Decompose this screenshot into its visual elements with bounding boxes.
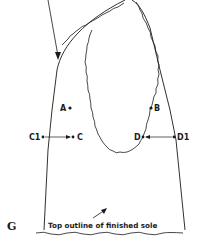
point-d1-label: D1 [177, 133, 190, 142]
point-b-label: B [154, 104, 160, 113]
figure-label: G [7, 220, 16, 233]
pointer-line-top [48, 0, 58, 56]
point-c1-label: C1 [29, 133, 41, 142]
point-c-label: C [77, 133, 83, 142]
point-c-dot [72, 136, 75, 139]
point-d-dot [142, 136, 145, 139]
point-a-label: A [60, 104, 67, 113]
point-c1-dot [42, 136, 45, 139]
finished-sole-outline [62, 2, 159, 153]
arrowhead-d [145, 135, 150, 139]
arrowhead-c [66, 135, 71, 139]
point-a-dot [68, 106, 71, 109]
bottom-edge [36, 232, 183, 235]
caption: Top outline of finished sole [48, 221, 158, 230]
outer-outline [44, 0, 185, 230]
sole-diagram: A B C1 C D D1 Top outline of finished so… [0, 0, 197, 244]
point-d1-dot [173, 136, 176, 139]
point-b-dot [149, 106, 152, 109]
caption-arrowhead [101, 208, 107, 214]
point-d-label: D [134, 133, 141, 142]
